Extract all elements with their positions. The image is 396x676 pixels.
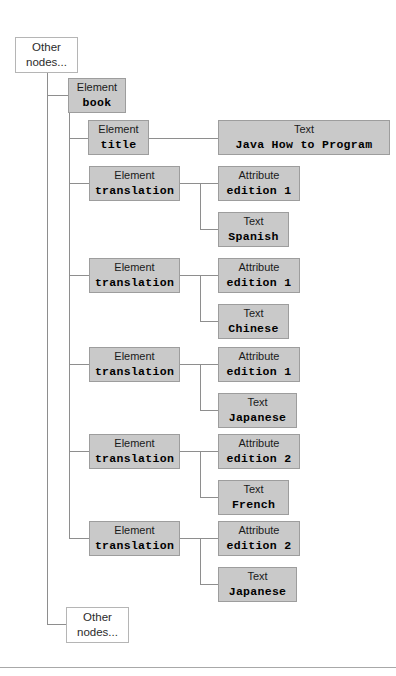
book-branch-translation-4 (69, 451, 89, 452)
node-text-translation-1[interactable]: Text Spanish (218, 212, 289, 247)
node-text-translation-5[interactable]: Text Japanese (218, 567, 297, 602)
text-translation-2-kind: Text (243, 307, 263, 320)
translation-5-stem (180, 538, 201, 539)
book-branch-translation-3 (69, 364, 89, 365)
translation-5-trunk (200, 538, 201, 585)
element-translation-1-kind: Element (114, 169, 154, 182)
node-attribute-translation-3[interactable]: Attribute edition 1 (218, 347, 300, 382)
text-translation-1-kind: Text (243, 215, 263, 228)
attribute-translation-2-kind: Attribute (239, 261, 280, 274)
translation-1-trunk (200, 183, 201, 230)
other-nodes-bottom-line1: Other (83, 610, 112, 625)
book-branch-translation-2 (69, 275, 89, 276)
attribute-translation-3-kind: Attribute (239, 350, 280, 363)
element-translation-4-value: translation (95, 452, 174, 466)
node-attribute-translation-4[interactable]: Attribute edition 2 (218, 434, 300, 469)
translation-4-branch-attribute (200, 451, 218, 452)
attribute-translation-4-kind: Attribute (239, 437, 280, 450)
title-text-connector (148, 138, 218, 139)
text-translation-4-kind: Text (243, 483, 263, 496)
outer-trunk-line (47, 72, 48, 624)
node-text-translation-4[interactable]: Text French (218, 480, 289, 515)
node-text-title-value[interactable]: Text Java How to Program (218, 120, 390, 155)
node-other-nodes-top[interactable]: Other nodes... (15, 37, 78, 73)
text-translation-3-value: Japanese (229, 411, 287, 425)
text-translation-5-kind: Text (247, 570, 267, 583)
node-text-translation-3[interactable]: Text Japanese (218, 393, 297, 428)
node-attribute-translation-1[interactable]: Attribute edition 1 (218, 166, 300, 201)
attribute-translation-1-value: edition 1 (227, 184, 292, 198)
node-other-nodes-bottom[interactable]: Other nodes... (66, 607, 129, 643)
node-element-translation-1[interactable]: Element translation (89, 166, 180, 201)
translation-4-stem (180, 451, 201, 452)
node-text-translation-2[interactable]: Text Chinese (218, 304, 289, 339)
dom-tree-diagram: Other nodes... Element book Element titl… (0, 0, 396, 676)
attribute-translation-5-value: edition 2 (227, 539, 292, 553)
translation-1-branch-attribute (200, 183, 218, 184)
book-branch-title (69, 138, 89, 139)
node-element-title[interactable]: Element title (88, 120, 149, 155)
text-translation-5-value: Japanese (229, 585, 287, 599)
translation-3-trunk (200, 364, 201, 411)
element-title-kind: Element (98, 123, 138, 136)
book-branch-translation-1 (69, 183, 89, 184)
text-translation-4-value: French (232, 498, 275, 512)
text-translation-1-value: Spanish (228, 230, 278, 244)
translation-5-branch-attribute (200, 538, 218, 539)
attribute-translation-1-kind: Attribute (239, 169, 280, 182)
element-title-value: title (100, 138, 136, 152)
text-translation-2-value: Chinese (228, 322, 278, 336)
element-translation-4-kind: Element (114, 437, 154, 450)
element-translation-5-value: translation (95, 539, 174, 553)
element-translation-1-value: translation (95, 184, 174, 198)
node-element-translation-2[interactable]: Element translation (89, 258, 180, 293)
node-element-translation-5[interactable]: Element translation (89, 521, 180, 556)
book-children-trunk (69, 112, 70, 539)
attribute-translation-5-kind: Attribute (239, 524, 280, 537)
translation-1-branch-text (200, 229, 218, 230)
element-book-kind: Element (77, 81, 117, 94)
root-connector (47, 95, 69, 96)
attribute-translation-4-value: edition 2 (227, 452, 292, 466)
text-title-kind: Text (294, 123, 314, 136)
text-title-value: Java How to Program (236, 138, 373, 152)
element-translation-5-kind: Element (114, 524, 154, 537)
other-nodes-bottom-line2: nodes... (77, 625, 118, 640)
attribute-translation-3-value: edition 1 (227, 365, 292, 379)
footer-rule (0, 667, 396, 668)
translation-3-stem (180, 364, 201, 365)
element-translation-3-kind: Element (114, 350, 154, 363)
other-nodes-top-line2: nodes... (26, 55, 67, 70)
node-element-translation-4[interactable]: Element translation (89, 434, 180, 469)
element-book-value: book (83, 96, 112, 110)
node-attribute-translation-2[interactable]: Attribute edition 1 (218, 258, 300, 293)
element-translation-2-value: translation (95, 276, 174, 290)
translation-5-branch-text (200, 584, 218, 585)
translation-3-branch-attribute (200, 364, 218, 365)
translation-2-branch-attribute (200, 275, 218, 276)
element-translation-2-kind: Element (114, 261, 154, 274)
translation-2-trunk (200, 275, 201, 322)
node-element-translation-3[interactable]: Element translation (89, 347, 180, 382)
translation-1-stem (180, 183, 201, 184)
other-nodes-top-line1: Other (32, 40, 61, 55)
text-translation-3-kind: Text (247, 396, 267, 409)
element-translation-3-value: translation (95, 365, 174, 379)
translation-3-branch-text (200, 410, 218, 411)
translation-4-branch-text (200, 497, 218, 498)
node-attribute-translation-5[interactable]: Attribute edition 2 (218, 521, 300, 556)
translation-4-trunk (200, 451, 201, 498)
translation-2-stem (180, 275, 201, 276)
book-branch-translation-5 (69, 538, 89, 539)
translation-2-branch-text (200, 321, 218, 322)
node-element-book[interactable]: Element book (68, 78, 126, 113)
attribute-translation-2-value: edition 1 (227, 276, 292, 290)
bottom-placeholder-connector (47, 624, 66, 625)
